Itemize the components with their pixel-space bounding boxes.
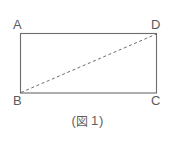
vertex-label-b: B (13, 94, 22, 107)
figure-caption: (図1) (0, 113, 175, 130)
caption-figure-number: 1 (91, 113, 98, 128)
vertex-label-c: C (151, 94, 160, 107)
caption-figure-character: 図 (76, 115, 88, 130)
caption-close-paren: ) (99, 113, 103, 128)
diagonal-bd-dashed-line (21, 34, 157, 93)
vertex-label-d: D (151, 18, 160, 31)
figure-container: A D C B (図1) (0, 0, 175, 148)
vertex-label-a: A (13, 18, 22, 31)
